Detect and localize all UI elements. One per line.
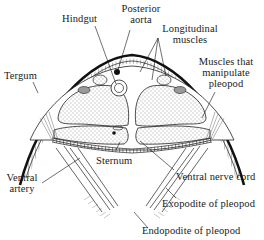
label-ventral-artery-line2: artery [4,183,40,195]
label-muscles-pleopod-line3: pleopod [188,78,264,90]
diagram-canvas: Hindgut Posterior aorta Longitudinal mus… [0,0,264,240]
label-sternum: Sternum [96,155,132,167]
hindgut [111,80,127,96]
label-longitudinal-muscles-line2: muscles [155,34,225,46]
label-hindgut: Hindgut [62,13,97,25]
label-endopodite: Endopodite of pleopod [142,225,240,237]
posterior-aorta [114,69,120,75]
label-ventral-nerve-cord: Ventral nerve cord [176,171,255,183]
label-tergum: Tergum [4,70,37,82]
label-exopodite: Exopodite of pleopod [162,198,255,210]
ventral-artery [112,131,116,135]
